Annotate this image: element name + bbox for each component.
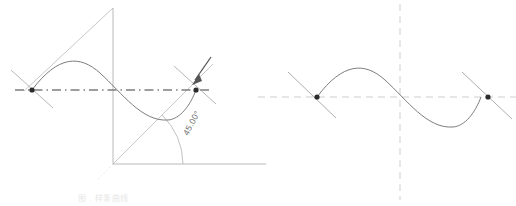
start-tangent-handle[interactable] (288, 72, 336, 118)
angle-arc (162, 115, 183, 164)
right-figure (258, 4, 516, 200)
cad-drawing: 45.00° (0, 0, 516, 206)
end-point[interactable] (485, 94, 490, 99)
start-point[interactable] (314, 94, 319, 99)
spline-curve (317, 68, 481, 127)
figure-caption: 图 . 样条曲线 (78, 192, 129, 203)
construction-line-extension (96, 164, 113, 181)
figure-canvas: 45.00° 图 . 样条曲线 (0, 0, 516, 206)
start-point[interactable] (29, 87, 34, 92)
angle-dimension-label: 45.00° (181, 109, 202, 137)
end-tangent-handle[interactable] (174, 66, 216, 104)
construction-triangle-hypotenuse (24, 8, 113, 91)
selection-arrow (192, 57, 211, 85)
left-figure: 45.00° (11, 8, 266, 181)
end-point[interactable] (193, 87, 198, 92)
